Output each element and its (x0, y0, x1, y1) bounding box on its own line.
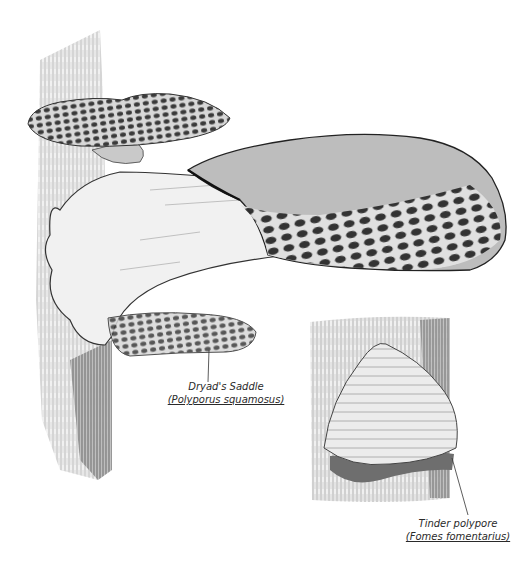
dryads-saddle-label: Dryad's Saddle (Polyporus squamosus) (164, 380, 288, 406)
fungi-illustration (0, 0, 512, 563)
tinder-polypore-label: Tinder polypore (Fomes fomentarius) (404, 517, 512, 543)
dryads-saddle-common-name: Dryad's Saddle (164, 380, 288, 393)
tinder-polypore-common-name: Tinder polypore (404, 517, 512, 530)
tinder-polypore-leader-line (452, 458, 468, 515)
dryads-saddle-scientific-name: (Polyporus squamosus) (164, 393, 288, 406)
dryads-saddle-leader-line (208, 350, 209, 382)
dryads-saddle-lower-cap (108, 313, 256, 356)
tinder-polypore-scientific-name: (Fomes fomentarius) (404, 530, 512, 543)
